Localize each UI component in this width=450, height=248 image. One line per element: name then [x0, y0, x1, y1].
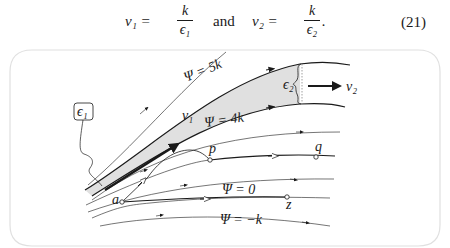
label-point-z: z	[285, 197, 292, 212]
equation-period: .	[322, 13, 326, 30]
label-point-p: p	[208, 141, 216, 156]
equation-connector: and	[213, 13, 235, 30]
point-p	[208, 158, 212, 162]
label-eps2: ϵ₂	[283, 77, 294, 92]
label-psi-neg-k: Ψ = −k	[220, 212, 263, 227]
streamline-figure: Ψ = 5k Ψ = 4k Ψ = 0 Ψ = −k v₁ v₂ ϵ₂ ϵ₁ a…	[0, 46, 450, 248]
equation-21: v₁ = k ϵ₁ and v₂ = k ϵ₂ . (21)	[0, 0, 450, 46]
label-v1: v₁	[182, 108, 193, 123]
label-psi-5k: Ψ = 5k	[182, 56, 225, 85]
eps1-callout-leader	[80, 120, 102, 186]
point-a	[120, 200, 124, 204]
point-q	[314, 155, 318, 159]
fraction-k-over-eps1: k ϵ₁	[177, 3, 193, 38]
label-point-a: a	[112, 192, 119, 207]
equation-lhs-v1: v₁ =	[125, 13, 151, 30]
fraction-k-over-eps2: k ϵ₂	[304, 3, 320, 38]
streamline-psi-neg-k	[100, 217, 330, 226]
label-point-q: q	[315, 139, 322, 154]
label-v2: v₂	[346, 79, 357, 94]
equation-number: (21)	[401, 14, 426, 31]
label-psi-0: Ψ = 0	[222, 182, 255, 197]
equation-lhs-v2: v₂ =	[252, 13, 278, 30]
stream-tube-shade	[85, 64, 300, 196]
label-eps1: ϵ₁	[77, 104, 88, 119]
